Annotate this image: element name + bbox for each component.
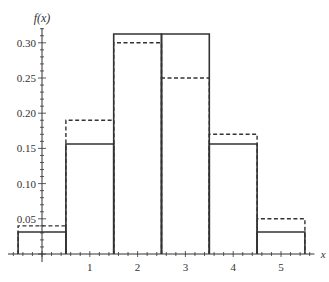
dashed-bar bbox=[114, 43, 162, 254]
y-tick-label: 0.15 bbox=[17, 142, 37, 154]
x-tick-label: 3 bbox=[183, 261, 189, 273]
histogram-chart: 123450.050.100.150.200.250.30xf(x) bbox=[0, 0, 329, 282]
y-tick-label: 0.05 bbox=[17, 213, 37, 225]
solid-bar bbox=[257, 232, 305, 254]
y-tick-label: 0.20 bbox=[17, 107, 37, 119]
solid-bar bbox=[114, 34, 162, 254]
x-axis-label: x bbox=[320, 248, 326, 260]
axis-labels: 123450.050.100.150.200.250.30xf(x) bbox=[17, 11, 326, 273]
dashed-bar bbox=[257, 219, 305, 254]
solid-bar bbox=[66, 144, 114, 254]
dashed-bar bbox=[162, 78, 210, 254]
y-axis-label: f(x) bbox=[34, 11, 51, 25]
dashed-bar bbox=[209, 134, 257, 254]
x-tick-label: 4 bbox=[230, 261, 236, 273]
y-tick-label: 0.25 bbox=[17, 72, 37, 84]
solid-bar bbox=[209, 144, 257, 254]
x-tick-label: 1 bbox=[87, 261, 93, 273]
solid-bar bbox=[162, 34, 210, 254]
x-tick-label: 5 bbox=[278, 261, 284, 273]
x-tick-label: 2 bbox=[135, 261, 141, 273]
dashed-bar bbox=[66, 120, 114, 254]
y-tick-label: 0.10 bbox=[17, 178, 37, 190]
y-tick-label: 0.30 bbox=[17, 37, 37, 49]
